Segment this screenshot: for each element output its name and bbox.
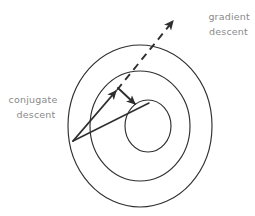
conjugate-descent-group bbox=[73, 88, 149, 141]
gradient-descent-label-line-1: gradient bbox=[208, 11, 250, 22]
gradient-descent-label-line-2: descent bbox=[192, 24, 250, 39]
inner-contour-ellipse bbox=[125, 100, 171, 152]
gradient-descent-dashed-arrow bbox=[117, 21, 173, 90]
conjugate-descent-label: conjugate descent bbox=[2, 92, 64, 122]
conjugate-descent-label-line-1: conjugate bbox=[9, 94, 58, 105]
gradient-descent-label: gradient descent bbox=[192, 9, 250, 39]
conjugate-step-1-arrow bbox=[73, 91, 116, 141]
descent-diagram-figure: gradient descent conjugate descent bbox=[0, 0, 255, 216]
conjugate-step-2-arrow bbox=[118, 88, 135, 104]
contour-group bbox=[68, 45, 212, 207]
gradient-descent-group bbox=[117, 21, 173, 90]
conjugate-chord-line bbox=[73, 103, 149, 141]
middle-contour-ellipse bbox=[90, 71, 190, 181]
conjugate-descent-label-line-2: descent bbox=[2, 107, 64, 122]
